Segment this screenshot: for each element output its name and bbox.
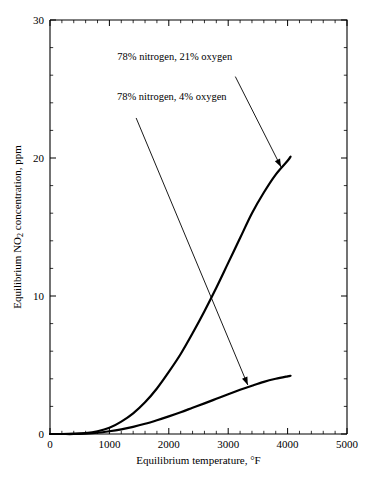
y-axis-title-pre: Equilibrium NO bbox=[11, 237, 23, 309]
y-tick-label: 30 bbox=[33, 14, 45, 26]
x-tick-label: 2000 bbox=[158, 438, 181, 450]
y-axis-title-post: concentration, ppm bbox=[11, 145, 23, 233]
chart-figure: 010002000300040005000 0102030 78% nitrog… bbox=[0, 0, 373, 477]
y-tick-label: 10 bbox=[33, 290, 45, 302]
chart-canvas: 010002000300040005000 0102030 78% nitrog… bbox=[0, 0, 373, 477]
x-axis-title: Equilibrium temperature, °F bbox=[136, 454, 260, 466]
series-annotation-label: 78% nitrogen, 4% oxygen bbox=[117, 91, 227, 102]
x-tick-label: 0 bbox=[47, 438, 53, 450]
y-tick-label: 20 bbox=[33, 152, 45, 164]
x-tick-label: 3000 bbox=[217, 438, 240, 450]
y-axis-title: Equilibrium NO2 concentration, ppm bbox=[11, 145, 25, 309]
svg-text:Equilibrium NO2 concentration,: Equilibrium NO2 concentration, ppm bbox=[11, 145, 25, 309]
x-tick-label: 4000 bbox=[277, 438, 300, 450]
y-tick-label: 0 bbox=[39, 428, 45, 440]
series-annotation-label: 78% nitrogen, 21% oxygen bbox=[117, 51, 233, 62]
x-tick-label: 1000 bbox=[98, 438, 121, 450]
x-tick-label: 5000 bbox=[336, 438, 359, 450]
